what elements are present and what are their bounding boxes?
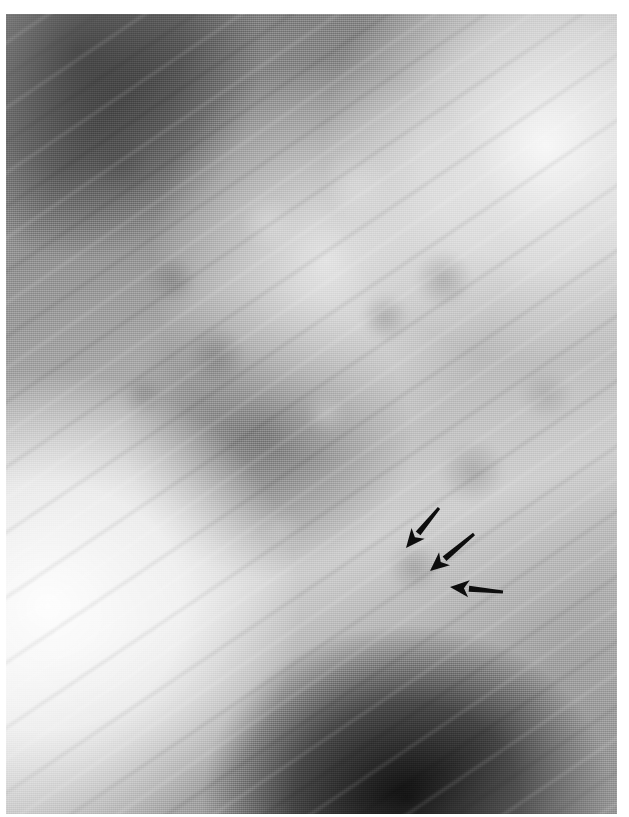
edge-vignette-layer xyxy=(6,14,617,814)
radiograph-figure xyxy=(0,0,629,817)
radiograph-image xyxy=(6,14,617,814)
